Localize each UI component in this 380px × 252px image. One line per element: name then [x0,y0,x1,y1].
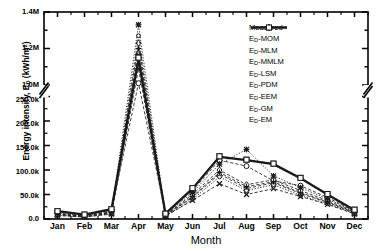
legend-label-suffix: -GM [258,104,273,113]
legend-label-suffix: -PDM [258,80,277,89]
legend-item-elsm: ED-LSM [249,68,367,80]
legend-item-emom: ED-MOM [249,34,367,46]
legend-label: ED-LSM [249,70,276,79]
legend-item-eem: ED-EM [249,115,367,127]
legend-item-eeem: ED-EEM [249,92,367,104]
legend-item-emmlm: ED-MMLM [249,57,367,69]
chart-legend: MeasuredED-MOMED-MLMED-MMLMED-LSMED-PDME… [249,22,367,126]
legend-label: ED-EEM [249,93,277,102]
legend-label: ED-MLM [249,47,278,56]
legend-label: ED-PDM [249,81,278,90]
chart-root: Energy intensity, ED (kWh/m2) 1.4M 1.2M … [0,0,380,252]
legend-label-suffix: -MLM [258,46,277,55]
legend-label: ED-MMLM [249,58,284,67]
legend-label-suffix: -EEM [258,92,277,101]
legend-key-square-icon [249,22,289,33]
legend-label-suffix: -LSM [258,69,276,78]
legend-label-suffix: -EM [258,115,272,124]
legend-label-suffix: -MOM [258,34,279,43]
x-axis-title: Month [44,234,368,246]
legend-item-epdm: ED-PDM [249,80,367,92]
legend-label: ED-GM [249,105,273,114]
legend-label: ED-EM [249,116,272,125]
legend-label: ED-MOM [249,35,279,44]
legend-item-egm: ED-GM [249,103,367,115]
legend-item-emlm: ED-MLM [249,45,367,57]
x-tick-dec: Dec [338,221,372,231]
legend-label-suffix: -MMLM [258,57,284,66]
